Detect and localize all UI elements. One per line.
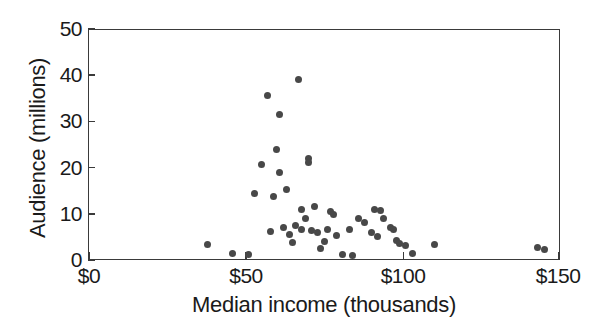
x-tick-mark (403, 252, 405, 260)
scatter-plot-figure: 0 10 20 30 40 50 $0 $50 $100 $150 Median… (0, 0, 608, 333)
x-tick-label-0: $0 (44, 264, 134, 288)
x-tick-mark (88, 252, 90, 260)
y-tick-mark (88, 74, 95, 76)
y-tick-mark (88, 167, 95, 169)
x-axis-title: Median income (thousands) (88, 292, 560, 318)
x-tick-mark (245, 252, 247, 260)
y-tick-mark (88, 121, 95, 123)
x-tick-label-100: $100 (358, 264, 448, 288)
x-tick-label-150: $150 (513, 264, 603, 288)
x-tick-mark (558, 252, 560, 260)
plot-area-frame (88, 29, 560, 260)
y-axis-title: Audience (millions) (26, 18, 50, 278)
y-tick-mark (88, 213, 95, 215)
y-tick-mark (88, 28, 95, 30)
x-tick-label-50: $50 (201, 264, 291, 288)
